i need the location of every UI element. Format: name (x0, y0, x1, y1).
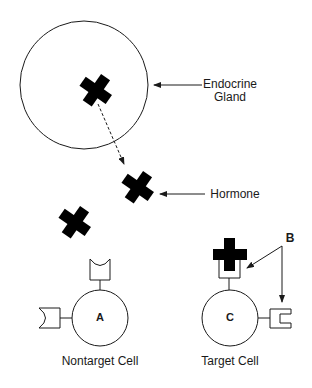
release-dashed-arrow (98, 104, 124, 164)
target-cell-letter: C (220, 311, 240, 323)
endocrine-gland-label-line2: Gland (198, 91, 262, 104)
endocrine-diagram (0, 0, 312, 388)
target-cell-label: Target Cell (190, 355, 270, 368)
hormone-free-icon (53, 200, 98, 245)
bound-hormone-icon (213, 238, 247, 271)
hormone-label: Hormone (207, 188, 263, 201)
hormone-released-icon (116, 165, 161, 210)
nontarget-top-receptor-icon (90, 259, 110, 280)
receptor-b-label: B (284, 232, 296, 245)
nontarget-cell-label: Nontarget Cell (50, 355, 150, 368)
target-right-receptor-icon (270, 309, 291, 328)
nontarget-left-receptor-icon (39, 308, 60, 328)
nontarget-cell-letter: A (90, 311, 110, 323)
b-pointer-arrow-top (247, 246, 282, 268)
endocrine-gland-label: Endocrine Gland (198, 78, 262, 104)
hormone-in-gland-icon (74, 68, 119, 113)
